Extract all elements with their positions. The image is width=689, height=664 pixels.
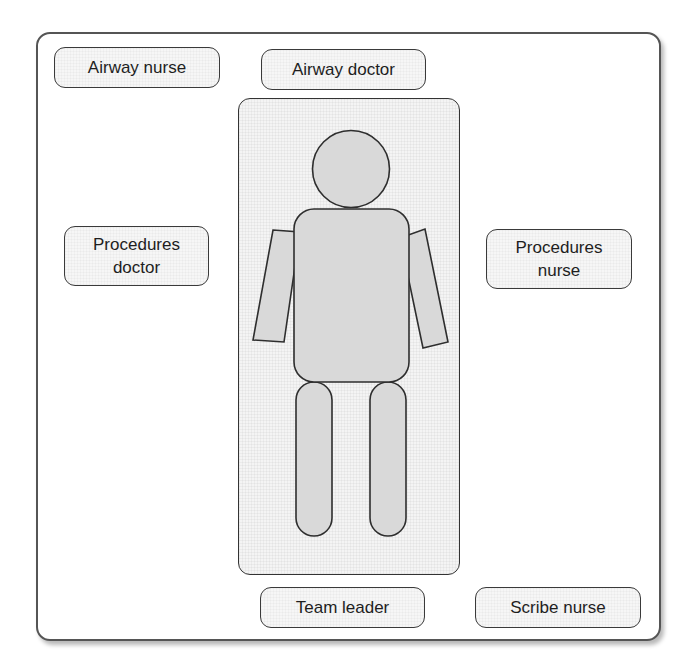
role-team-leader: Team leader <box>260 587 425 628</box>
role-procedures-nurse: Procedures nurse <box>486 229 632 289</box>
role-procedures-doctor: Procedures doctor <box>64 226 209 286</box>
role-airway-nurse: Airway nurse <box>54 47 220 88</box>
role-scribe-nurse: Scribe nurse <box>475 587 641 628</box>
patient-bed <box>238 98 460 575</box>
role-airway-doctor: Airway doctor <box>261 49 426 90</box>
